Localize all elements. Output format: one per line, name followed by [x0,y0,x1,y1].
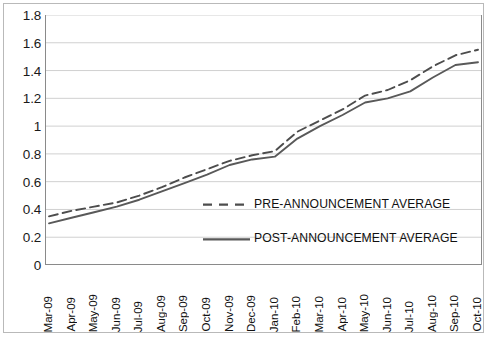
x-axis-tick-label: Jun-09 [110,297,122,332]
x-axis-tick-label: Aug-09 [155,295,167,332]
x-axis-tick-label: Mar-09 [42,296,54,332]
y-axis-tick-label: 0.8 [23,146,41,161]
x-axis-tick-label: Jul-09 [132,301,144,332]
y-axis-tick-label: 1.6 [23,35,41,50]
plot-area [45,15,482,265]
y-axis: 1.81.61.41.210.80.60.40.20 [0,15,41,265]
chart-container: 1.81.61.41.210.80.60.40.20 Mar-09Apr-09M… [0,0,489,337]
legend-label-pre-announcement: PRE-ANNOUNCEMENT AVERAGE [254,197,450,211]
y-axis-tick-label: 0 [34,258,41,273]
y-axis-tick-label: 1.2 [23,91,41,106]
x-axis-tick-label: Apr-09 [65,297,77,332]
x-axis-tick-label: Oct-09 [200,297,212,332]
x-axis-tick-label: Oct-10 [471,297,483,332]
y-axis-tick-label: 0.6 [23,174,41,189]
x-axis-tick-label: May-10 [358,294,370,332]
x-axis-tick-label: Apr-10 [336,297,348,332]
y-axis-tick-label: 0.4 [23,202,41,217]
x-axis-tick-label: Jan-10 [268,297,280,332]
y-axis-tick-label: 1 [34,119,41,134]
y-axis-tick-label: 1.4 [23,63,41,78]
x-axis-tick-label: Sep-09 [177,295,189,332]
x-axis-tick-label: Aug-10 [426,295,438,332]
x-axis-tick-label: Sep-10 [448,295,460,332]
x-axis-tick-label: Mar-10 [313,296,325,332]
legend-label-post-announcement: POST-ANNOUNCEMENT AVERAGE [254,231,458,245]
x-axis-tick-label: Feb-10 [290,296,302,332]
y-axis-tick-label: 0.2 [23,230,41,245]
x-axis-tick-label: Jun-10 [381,297,393,332]
x-axis-tick-label: Dec-09 [245,295,257,332]
x-axis-tick-label: Nov-09 [223,295,235,332]
x-axis-tick-label: Jul-10 [403,301,415,332]
series-line-pre-announcement [49,50,478,217]
x-axis-tick-label: May-09 [87,294,99,332]
y-axis-tick-label: 1.8 [23,8,41,23]
x-axis: Mar-09Apr-09May-09Jun-09Jul-09Aug-09Sep-… [45,270,482,332]
plot-svg [45,15,482,265]
